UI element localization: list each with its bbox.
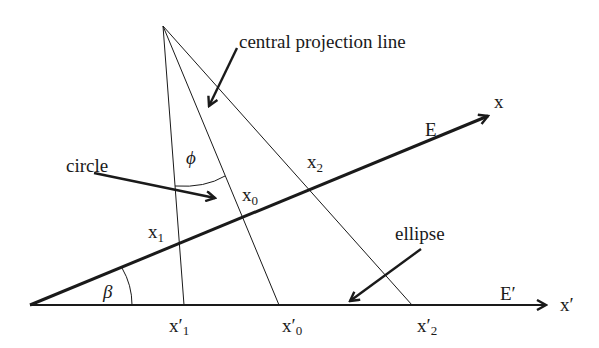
ellipse-pointer-arrow: [350, 249, 421, 301]
x-axis-line: [30, 116, 488, 305]
beta-label: β: [102, 281, 113, 302]
x-prime-0-label: x′0: [282, 315, 302, 338]
ellipse-label: ellipse: [395, 223, 445, 244]
phi-angle-arc: [175, 176, 225, 186]
central-projection-line-label: central projection line: [239, 31, 406, 52]
central-projection-diagram: central projection line circle ellipse x…: [0, 0, 599, 348]
x-prime-2-label: x′2: [417, 315, 437, 338]
central-projection-pointer-arrow: [209, 48, 237, 106]
x-prime-axis-label: x′: [560, 294, 574, 315]
phi-label: ϕ: [186, 147, 196, 168]
x0-label: x0: [242, 184, 258, 208]
circle-label: circle: [66, 155, 108, 176]
x-prime-1-label: x′1: [169, 315, 189, 338]
plane-e-label: E: [425, 119, 437, 140]
x1-label: x1: [148, 221, 164, 245]
x2-label: x2: [307, 151, 323, 175]
plane-e-prime-label: E′: [500, 283, 516, 304]
x-axis-label: x: [494, 91, 504, 112]
beta-angle-arc: [122, 268, 132, 305]
projection-line-2: [163, 26, 412, 305]
